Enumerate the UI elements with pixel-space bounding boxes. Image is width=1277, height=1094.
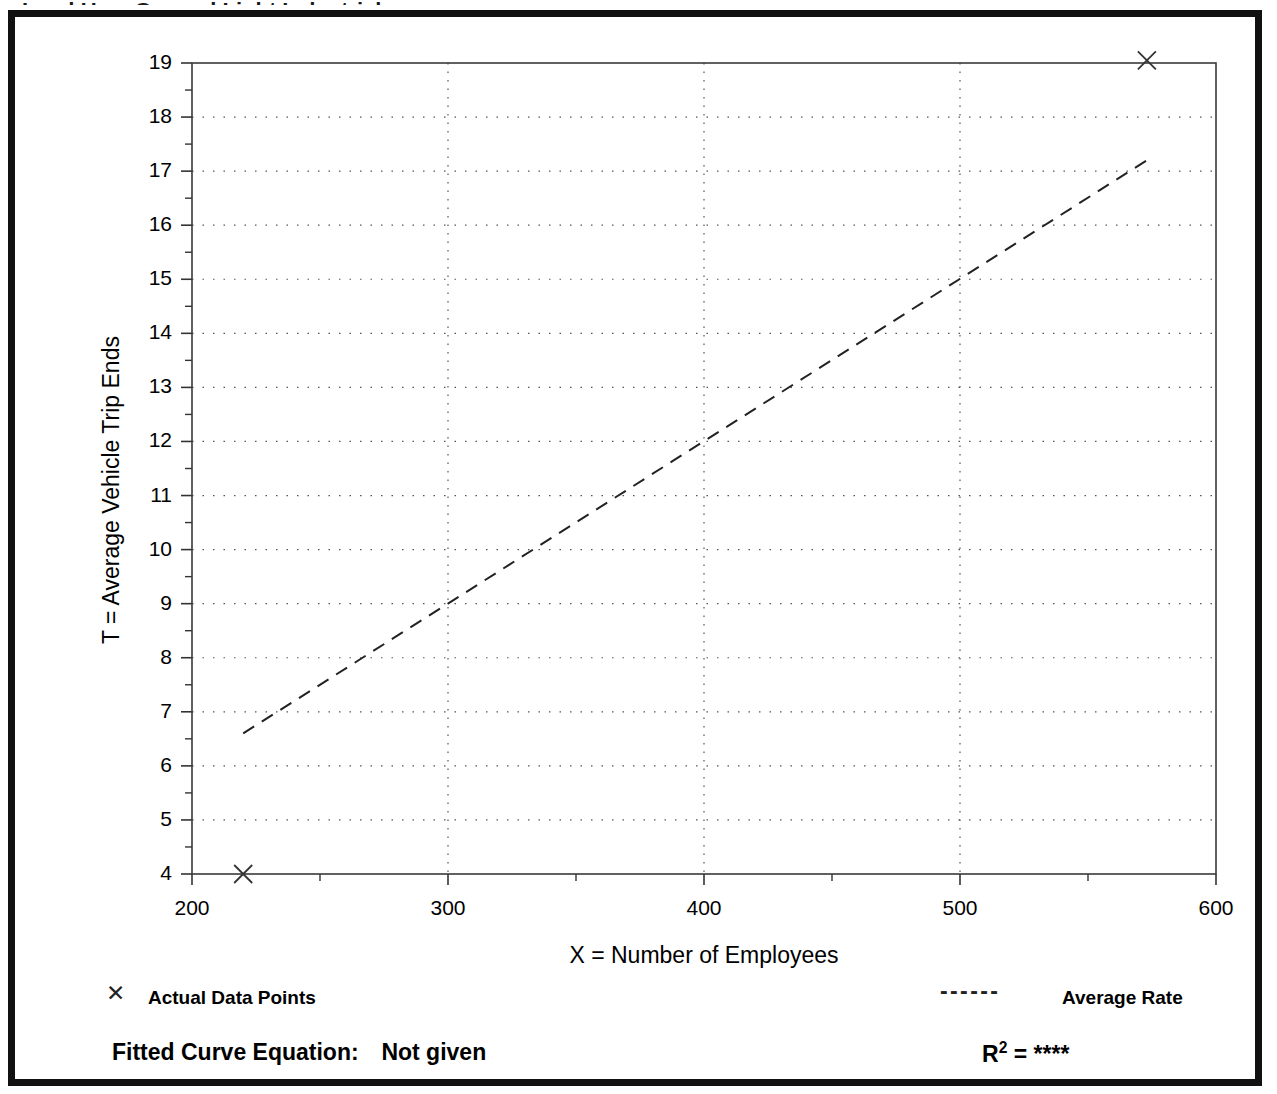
- y-tick-label: 19: [102, 50, 172, 74]
- average-rate-dash-icon: - - - - - -: [940, 980, 996, 1003]
- equation-value: Not given: [381, 1039, 486, 1065]
- y-tick-label: 6: [102, 753, 172, 777]
- y-tick-label: 7: [102, 699, 172, 723]
- chart-area: 45678910111213141516171819 2003004005006…: [0, 0, 1277, 1094]
- gridlines: [192, 63, 1216, 874]
- axis-ticks: [181, 63, 1216, 885]
- x-axis-title: X = Number of Employees: [404, 942, 1004, 969]
- r2-stars: ****: [1034, 1041, 1070, 1067]
- y-axis-title: T = Average Vehicle Trip Ends: [98, 336, 125, 644]
- y-tick-label: 17: [102, 158, 172, 182]
- y-tick-label: 5: [102, 807, 172, 831]
- fitted-curve-equation: Fitted Curve Equation: Not given: [112, 1039, 486, 1066]
- r2-exponent: 2: [999, 1039, 1008, 1056]
- average-rate-line: [243, 160, 1147, 733]
- y-tick-label: 16: [102, 212, 172, 236]
- figure-page: Land Use: General Light Industrial 45678…: [0, 0, 1277, 1094]
- y-tick-label: 15: [102, 266, 172, 290]
- data-points-marker-icon: ✕: [106, 982, 125, 1005]
- x-tick-label: 400: [654, 896, 754, 920]
- average-rate-legend-label: Average Rate: [1062, 987, 1183, 1009]
- y-tick-label: 4: [102, 861, 172, 885]
- actual-data-points: [234, 51, 1156, 883]
- r2-prefix: R: [982, 1041, 999, 1067]
- plot-canvas: [0, 0, 1277, 1094]
- y-tick-label: 18: [102, 104, 172, 128]
- data-points-legend-label: Actual Data Points: [148, 987, 316, 1009]
- equation-label: Fitted Curve Equation:: [112, 1039, 359, 1065]
- y-tick-label: 8: [102, 645, 172, 669]
- r-squared-value: R2 = ****: [982, 1039, 1069, 1068]
- x-tick-label: 300: [398, 896, 498, 920]
- x-tick-label: 500: [910, 896, 1010, 920]
- x-tick-label: 600: [1166, 896, 1266, 920]
- r2-equals: =: [1014, 1041, 1027, 1067]
- x-tick-label: 200: [142, 896, 242, 920]
